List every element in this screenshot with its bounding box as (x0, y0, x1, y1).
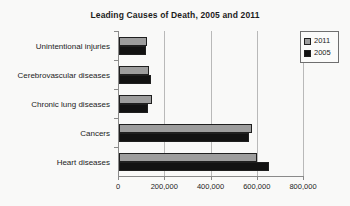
y-tick-mark (114, 60, 118, 61)
chart-legend: 20112005 (300, 31, 339, 63)
legend-item-2005: 2005 (304, 47, 338, 59)
series-2011-swatch (304, 38, 311, 45)
bar-2011 (119, 95, 152, 104)
category-label: Cerebrovascular diseases (18, 70, 111, 79)
category-label: Chronic lung diseases (31, 99, 110, 108)
bar-2005 (119, 104, 148, 113)
bar-2011 (119, 153, 257, 162)
bar-chart: Leading Causes of Death, 2005 and 2011 H… (0, 0, 350, 206)
x-tick-mark (257, 176, 258, 180)
legend-label: 2005 (314, 49, 331, 57)
x-tick-label: 200,000 (151, 182, 178, 191)
x-tick-mark (303, 176, 304, 180)
bar-2011 (119, 37, 147, 46)
chart-title: Leading Causes of Death, 2005 and 2011 (0, 10, 350, 20)
x-tick-mark (118, 176, 119, 180)
legend-label: 2011 (314, 37, 330, 45)
bar-2005 (119, 46, 146, 55)
x-tick-label: 0 (116, 182, 120, 191)
y-tick-mark (114, 31, 118, 32)
bar-2005 (119, 133, 249, 142)
y-tick-mark (114, 147, 118, 148)
x-tick-mark (164, 176, 165, 180)
plot-area: 0200,000400,000600,000800,000 (118, 31, 303, 176)
y-tick-mark (114, 118, 118, 119)
category-label: Unintentional injuries (36, 41, 110, 50)
bar-2005 (119, 75, 151, 84)
x-tick-mark (211, 176, 212, 180)
x-tick-label: 400,000 (197, 182, 224, 191)
x-tick-label: 800,000 (289, 182, 316, 191)
legend-item-2011: 2011 (304, 35, 338, 47)
x-tick-label: 600,000 (243, 182, 270, 191)
category-label: Cancers (80, 128, 110, 137)
y-tick-mark (114, 89, 118, 90)
y-axis-category-labels: Heart diseasesCancersChronic lung diseas… (0, 31, 114, 176)
bar-2005 (119, 162, 269, 171)
category-label: Heart diseases (57, 157, 110, 166)
bar-2011 (119, 66, 149, 75)
series-2005-swatch (304, 50, 311, 57)
bar-2011 (119, 124, 252, 133)
